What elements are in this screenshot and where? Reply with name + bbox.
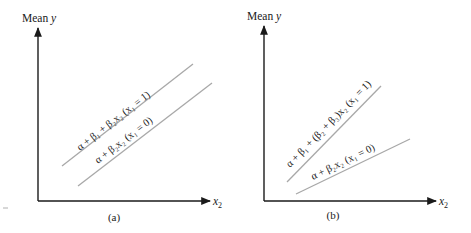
x-axis-label: x2 (212, 195, 222, 210)
panel-b: Mean y x2 α + β₁ + (β₂ + β₃)x₂ (x₁ = 1) … (247, 10, 448, 222)
x-axis-label: x2 (438, 195, 448, 210)
regression-interaction-figure: Mean y x2 α + β₁ + β₂x₂ (x₁ = 1) α + β₂x… (0, 0, 471, 233)
eq-label-x1-eq-0: α + β₂x₂ (x₁ = 0) (309, 141, 377, 182)
caption-b: (b) (327, 209, 340, 222)
y-axis-label: Mean y (247, 10, 282, 23)
caption-a: (a) (108, 211, 121, 224)
panel-a: Mean y x2 α + β₁ + β₂x₂ (x₁ = 1) α + β₂x… (22, 12, 222, 224)
y-axis-label: Mean y (22, 12, 57, 25)
